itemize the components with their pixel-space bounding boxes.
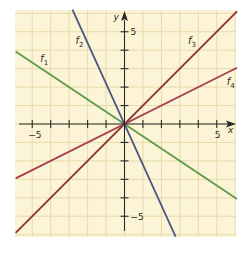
x-tick-label: −5	[28, 130, 41, 140]
x-axis-label: x	[227, 125, 234, 135]
x-tick-label: 5	[215, 130, 221, 140]
y-tick-label: 5	[131, 27, 137, 37]
function-graph: −555−5xyf1f2f3f4	[0, 0, 248, 255]
y-axis-label: y	[113, 12, 120, 22]
y-tick-label: −5	[131, 212, 144, 222]
